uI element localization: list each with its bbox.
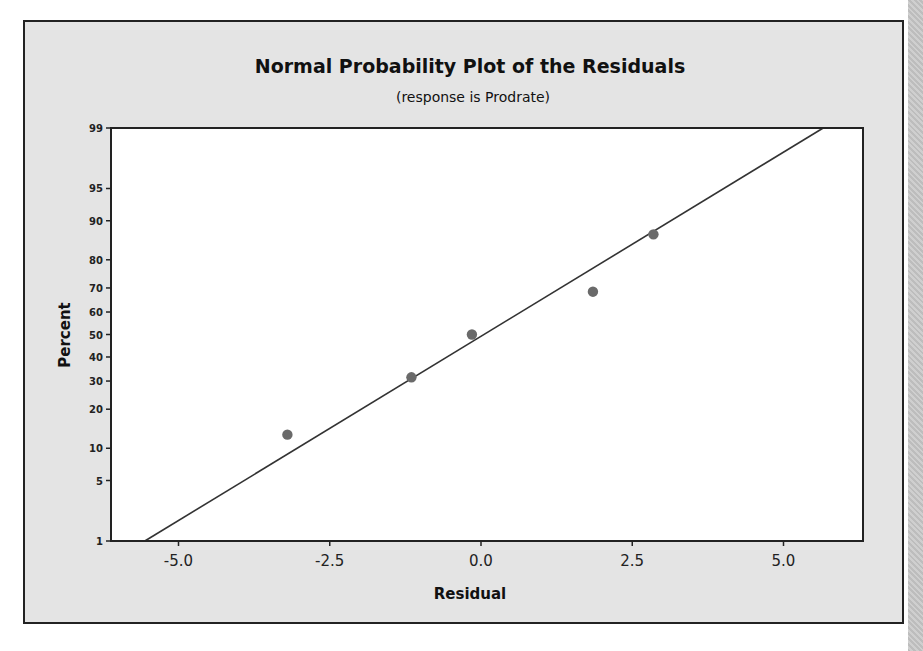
- data-point: [406, 372, 416, 382]
- data-point: [467, 329, 477, 339]
- probability-plot: Normal Probability Plot of the Residuals…: [0, 0, 923, 651]
- y-axis-label: Percent: [56, 302, 74, 367]
- y-tick-label: 40: [89, 352, 103, 363]
- y-tick-label: 70: [89, 283, 103, 294]
- y-tick-label: 60: [89, 307, 103, 318]
- x-tick-label: -2.5: [315, 552, 344, 570]
- x-axis-label: Residual: [434, 585, 506, 603]
- data-point: [282, 429, 292, 439]
- y-tick-label: 1: [96, 536, 103, 547]
- data-point: [588, 286, 598, 296]
- chart-subtitle: (response is Prodrate): [396, 89, 550, 105]
- y-tick-label: 99: [89, 123, 103, 134]
- y-tick-label: 10: [89, 443, 103, 454]
- data-point: [648, 229, 658, 239]
- plot-area: [111, 128, 863, 541]
- y-tick-label: 20: [89, 404, 103, 415]
- y-tick-label: 30: [89, 376, 103, 387]
- x-tick-label: -5.0: [164, 552, 193, 570]
- y-tick-label: 80: [89, 255, 103, 266]
- x-tick-label: 2.5: [620, 552, 644, 570]
- y-tick-label: 5: [96, 476, 103, 487]
- y-tick-label: 95: [89, 183, 103, 194]
- chart-title: Normal Probability Plot of the Residuals: [255, 55, 685, 77]
- x-tick-label: 5.0: [772, 552, 796, 570]
- y-tick-label: 90: [89, 216, 103, 227]
- y-tick-label: 50: [89, 330, 103, 341]
- x-tick-label: 0.0: [469, 552, 493, 570]
